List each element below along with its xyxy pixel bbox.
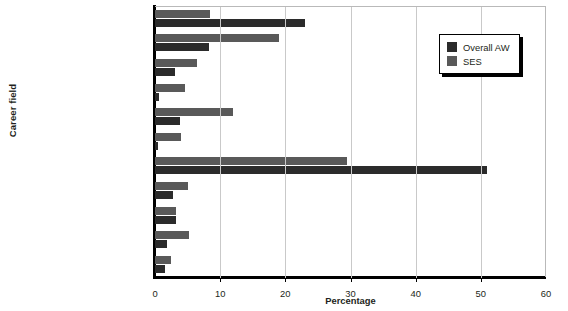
y-axis-title: Career field (7, 61, 18, 161)
legend-item-ses: SES (447, 54, 510, 68)
x-axis-tickmark (351, 278, 352, 282)
x-axis-gridline (351, 7, 352, 278)
bar-ses (155, 108, 233, 116)
legend-label-ses: SES (463, 56, 482, 67)
legend-swatch-overall-aw (447, 42, 457, 52)
bar-overall-aw (155, 142, 158, 150)
bar-overall-aw (155, 117, 180, 125)
bar-overall-aw (155, 19, 305, 27)
bar-ses (155, 34, 279, 42)
bar-chart-figure: Career field Program managementContracti… (0, 0, 568, 311)
bar-ses (155, 182, 188, 190)
x-axis-gridline (220, 7, 221, 278)
x-axis-gridline (416, 7, 417, 278)
bar-overall-aw (155, 191, 173, 199)
bar-overall-aw (155, 43, 209, 51)
x-axis-tickmark (481, 278, 482, 282)
bar-overall-aw (155, 240, 167, 248)
bar-ses (155, 133, 181, 141)
bar-overall-aw (155, 166, 487, 174)
bar-overall-aw (155, 68, 175, 76)
x-axis-tickmark (220, 278, 221, 282)
bar-overall-aw (155, 93, 159, 101)
x-axis-tickmark (285, 278, 286, 282)
legend-item-overall-aw: Overall AW (447, 40, 510, 54)
bar-ses (155, 207, 176, 215)
bar-ses (155, 59, 197, 67)
x-axis-tickmark (416, 278, 417, 282)
chart-legend: Overall AW SES (439, 34, 520, 74)
bar-ses (155, 10, 210, 18)
bar-overall-aw (155, 265, 165, 273)
bar-ses (155, 256, 171, 264)
legend-label-overall-aw: Overall AW (463, 42, 510, 53)
bar-ses (155, 231, 189, 239)
bar-ses (155, 84, 185, 92)
bar-overall-aw (155, 216, 176, 224)
x-axis-gridline (285, 7, 286, 278)
legend-swatch-ses (447, 56, 457, 66)
x-axis-title: Percentage (155, 295, 546, 306)
bar-ses (155, 157, 347, 165)
